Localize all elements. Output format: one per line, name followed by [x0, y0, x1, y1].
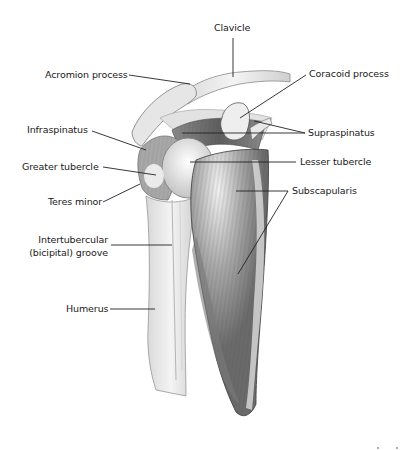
- humerus-bone: [146, 196, 196, 396]
- label-teres-minor: Teres minor: [48, 196, 102, 208]
- label-supraspinatus: Supraspinatus: [308, 127, 375, 139]
- label-clavicle: Clavicle: [214, 22, 250, 34]
- label-humerus: Humerus: [66, 303, 108, 315]
- label-acromion-process: Acromion process: [45, 69, 128, 81]
- label-greater-tubercle: Greater tubercle: [22, 161, 99, 173]
- label-subscapularis: Subscapularis: [292, 185, 357, 197]
- label-infraspinatus: Infraspinatus: [27, 124, 88, 136]
- label-intertubercular-line1: Intertubercular: [28, 234, 108, 246]
- label-coracoid-process: Coracoid process: [309, 68, 389, 80]
- label-lesser-tubercle: Lesser tubercle: [300, 156, 371, 168]
- speck: [396, 447, 398, 449]
- speck: [377, 447, 379, 449]
- anatomy-diagram: Clavicle Acromion process Coracoid proce…: [0, 0, 408, 450]
- subscapularis-muscle: [191, 149, 269, 415]
- label-intertubercular-line2: (bicipital) groove: [22, 247, 108, 259]
